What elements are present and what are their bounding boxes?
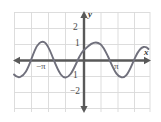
graph-canvas: [0, 0, 161, 122]
y-tick-label-neg2: −2: [70, 87, 80, 97]
y-tick-label-2: 2: [73, 23, 78, 33]
sine-function-graph: y x 2 1 1 −2 −π π: [0, 0, 161, 122]
x-tick-label-neg-pi: −π: [36, 62, 46, 71]
y-tick-neg2-value: 2: [75, 86, 80, 96]
y-axis-arrow-down: [80, 106, 87, 113]
y-axis: [80, 11, 87, 113]
y-tick-label-1: 1: [75, 39, 80, 49]
y-tick-label-neg1: 1: [73, 71, 78, 81]
y-axis-label: y: [88, 10, 92, 19]
x-axis: [13, 57, 151, 64]
x-tick-label-pos-pi: π: [114, 62, 119, 71]
x-axis-label: x: [144, 48, 149, 57]
grid-lines: [15, 12, 151, 112]
